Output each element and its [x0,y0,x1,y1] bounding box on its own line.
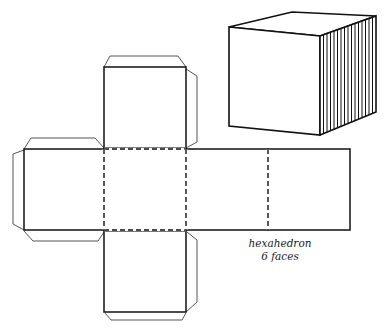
net-face-right [186,149,268,230]
net-face-left [24,149,104,230]
diagram-title: hexahedron [238,237,322,249]
fold-lines [104,149,268,230]
cube-illustration [229,12,376,135]
net-face-top [104,67,186,148]
hexahedron-diagram [0,0,386,333]
glue-tab [104,56,186,67]
cube-front-face [229,27,320,135]
glue-tab [13,150,24,230]
glue-tab [24,231,104,241]
net-face-bottom [104,231,186,312]
glue-tab [186,69,197,148]
diagram-subtitle: 6 faces [238,250,322,262]
glue-tab [105,313,186,320]
net-face-center [104,149,186,230]
glue-tab [24,138,104,149]
glue-tab [186,232,197,312]
net-face-far-right [268,149,350,230]
